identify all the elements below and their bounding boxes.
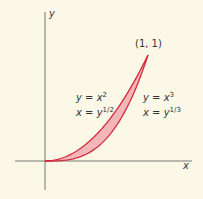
x-axis-label: x (183, 160, 189, 171)
equation-y-x3: y = x3 (143, 91, 174, 103)
equation-y-x2: y = x2 (76, 91, 107, 103)
point-label: (1, 1) (135, 38, 162, 49)
y-axis-label: y (49, 8, 55, 19)
equation-x-sqrt-y: x = y1/2 (76, 106, 114, 118)
equation-x-cbrt-y: x = y1/3 (143, 106, 181, 118)
